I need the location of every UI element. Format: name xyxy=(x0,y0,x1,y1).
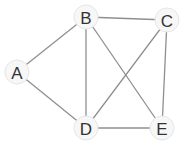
node-c: C xyxy=(155,8,179,32)
node-e: E xyxy=(150,116,174,140)
node-a: A xyxy=(5,60,29,84)
nodes-layer: ABCDE xyxy=(5,5,179,140)
edge-a-d xyxy=(17,72,86,128)
node-label: C xyxy=(161,12,173,31)
edge-c-d xyxy=(86,20,167,128)
node-b: B xyxy=(74,5,98,29)
edges-layer xyxy=(17,17,167,128)
edge-b-e xyxy=(86,17,162,128)
node-d: D xyxy=(74,116,98,140)
edge-a-b xyxy=(17,17,86,72)
edge-c-e xyxy=(162,20,167,128)
node-label: D xyxy=(80,120,92,139)
node-label: E xyxy=(156,120,167,139)
node-label: A xyxy=(11,64,23,83)
graph-diagram: ABCDE xyxy=(0,0,183,143)
node-label: B xyxy=(80,9,91,28)
